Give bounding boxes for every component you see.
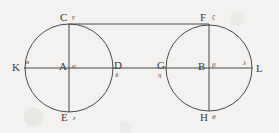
point-greek-D: δ bbox=[115, 72, 118, 79]
figure-canvas bbox=[0, 0, 279, 133]
point-greek-G: η bbox=[158, 72, 161, 79]
point-greek-H: θ bbox=[212, 114, 215, 121]
point-greek-L: λ bbox=[243, 60, 246, 67]
point-greek-E: ε bbox=[73, 115, 76, 122]
point-label-H: H bbox=[200, 112, 208, 123]
point-label-F: F bbox=[200, 12, 206, 23]
point-label-B: B bbox=[198, 61, 205, 72]
point-greek-A: α bbox=[72, 63, 76, 70]
point-greek-B: β bbox=[212, 62, 216, 69]
point-greek-C: γ bbox=[72, 14, 75, 21]
geometry-figure: C γ F ζ K κ A α D δ G η B β λ L E ε H θ bbox=[0, 0, 279, 133]
point-greek-K: κ bbox=[26, 59, 29, 66]
point-label-K: K bbox=[12, 62, 20, 73]
point-label-D: D bbox=[114, 60, 122, 71]
point-label-C: C bbox=[60, 12, 67, 23]
point-label-E: E bbox=[61, 112, 68, 123]
point-label-L: L bbox=[256, 63, 263, 74]
point-label-A: A bbox=[59, 61, 67, 72]
point-greek-F: ζ bbox=[212, 14, 215, 21]
point-label-G: G bbox=[157, 60, 165, 71]
